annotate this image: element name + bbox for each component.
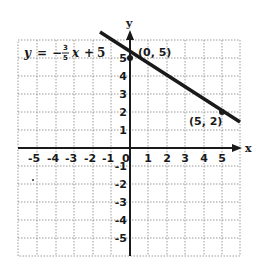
svg-text:=: = — [37, 46, 47, 60]
equation-label: y = − 3 5 x + 5 — [23, 44, 105, 62]
svg-text:3: 3 — [181, 152, 189, 165]
svg-text:-2: -2 — [84, 152, 96, 165]
svg-text:3: 3 — [119, 88, 127, 101]
svg-text:4: 4 — [119, 70, 127, 83]
svg-text:-1: -1 — [102, 152, 114, 165]
svg-text:-3: -3 — [115, 196, 127, 209]
svg-text:5: 5 — [218, 152, 226, 165]
point-0-5 — [127, 55, 133, 61]
svg-text:1: 1 — [119, 124, 127, 137]
svg-text:1: 1 — [144, 152, 152, 165]
svg-text:-3: -3 — [65, 152, 77, 165]
x-axis-label: x — [245, 142, 252, 155]
svg-text:4: 4 — [200, 152, 208, 165]
point-label-0-5: (0, 5) — [138, 46, 171, 59]
svg-text:−: − — [52, 46, 62, 60]
svg-text:+: + — [84, 46, 94, 60]
svg-text:5: 5 — [63, 54, 68, 62]
svg-text:y: y — [23, 46, 32, 60]
svg-text:3: 3 — [63, 44, 68, 52]
y-axis-label: y — [125, 17, 133, 30]
svg-text:-4: -4 — [115, 214, 128, 227]
speck — [32, 179, 34, 181]
svg-text:2: 2 — [119, 106, 127, 119]
svg-text:5: 5 — [119, 52, 127, 65]
svg-text:-5: -5 — [28, 152, 40, 165]
svg-text:2: 2 — [163, 152, 171, 165]
coordinate-graph: x y -5 -4 -3 -2 -1 1 2 3 4 5 0 5 4 3 2 1… — [0, 0, 258, 266]
svg-text:-2: -2 — [115, 178, 127, 191]
svg-text:x: x — [71, 46, 80, 60]
y-axis-arrow-icon — [126, 30, 134, 40]
svg-text:5: 5 — [97, 46, 105, 60]
axes — [18, 36, 236, 256]
svg-text:-1: -1 — [115, 160, 127, 173]
svg-text:-4: -4 — [47, 152, 60, 165]
svg-text:-5: -5 — [115, 232, 127, 245]
point-label-5-2: (5, 2) — [189, 115, 222, 128]
